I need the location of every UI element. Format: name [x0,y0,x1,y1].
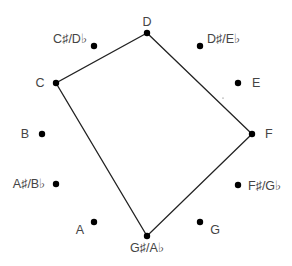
note-label-gs: G♯/A♭ [130,241,164,255]
note-label-ds: D♯/E♭ [207,32,240,46]
note-label-e: E [252,76,260,90]
note-label-a: A [76,223,85,237]
note-dot-f [249,131,255,137]
chromatic-circle-diagram: CC♯/D♭DD♯/E♭EFF♯/G♭GG♯/A♭AA♯/B♭B [0,0,292,266]
note-label-c: C [35,76,44,90]
note-label-fs: F♯/G♭ [248,179,281,193]
chord-polygon [56,33,252,236]
note-label-g: G [210,223,220,237]
note-dot-gs [144,233,150,239]
note-dot-d [144,30,150,36]
note-labels: CC♯/D♭DD♯/E♭EFF♯/G♭GG♯/A♭AA♯/B♭B [13,15,281,255]
note-dot-fs [235,182,241,188]
note-label-as: A♯/B♭ [13,177,45,191]
stray-mark [222,97,223,98]
note-dot-e [235,80,241,86]
note-dot-ds [197,43,203,49]
note-dot-cs [91,43,97,49]
note-label-cs: C♯/D♭ [53,32,87,46]
note-dot-g [197,219,203,225]
note-dots [39,30,255,239]
note-label-f: F [265,127,273,141]
note-label-d: D [142,15,151,29]
note-dot-a [91,219,97,225]
note-dot-b [39,131,45,137]
note-dot-as [53,181,59,187]
note-label-b: B [21,127,29,141]
note-dot-c [53,80,59,86]
